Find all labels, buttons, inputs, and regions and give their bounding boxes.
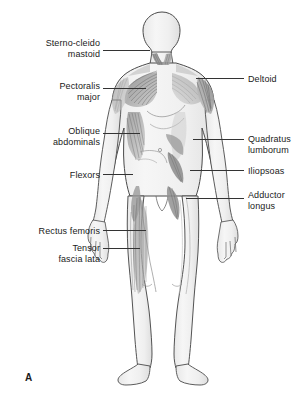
label-pectoralis-major: Pectoralis major (0, 81, 100, 103)
label-adductor-longus: Adductor longus (248, 190, 307, 212)
label-sterno-cleido-mastoid: Sterno-cleido mastoid (0, 38, 100, 60)
label-quadratus-lumborum: Quadratus lumborum (248, 134, 307, 156)
label-deltoid: Deltoid (248, 74, 307, 85)
label-flexors: Flexors (0, 170, 100, 181)
anatomy-figure-panel: Sterno-cleido mastoidPectoralis majorObl… (0, 0, 307, 396)
label-rectus-femoris: Rectus femoris (0, 226, 100, 237)
label-iliopsoas: Iliopsoas (248, 166, 307, 177)
label-tensor-fascia-lata: Tensor fascia lata (0, 243, 100, 265)
panel-letter: A (25, 372, 32, 383)
label-oblique-abdominals: Oblique abdominals (0, 126, 100, 148)
